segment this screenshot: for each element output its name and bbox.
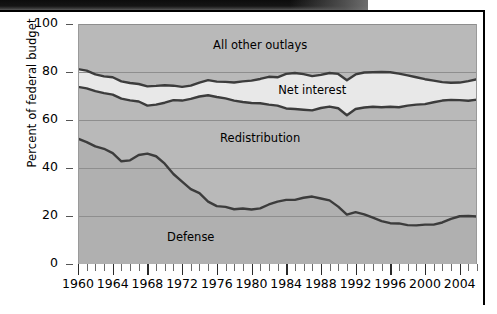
x-tick-1974: [199, 264, 200, 271]
x-tick-label-2000: 2000: [409, 276, 441, 291]
x-tick-1976: [217, 264, 218, 275]
x-tick-label-1972: 1972: [166, 276, 198, 291]
x-tick-label-1992: 1992: [340, 276, 372, 291]
x-tick-1993: [364, 264, 365, 271]
y-tick-dash-40: [66, 168, 73, 169]
y-tick-label-40: 40: [24, 161, 58, 174]
x-tick-1998: [408, 264, 409, 271]
x-tick-1996: [390, 264, 391, 275]
y-tick-label-0: 0: [24, 257, 58, 270]
x-tick-2006: [477, 264, 478, 271]
x-tick-1999: [416, 264, 417, 271]
x-tick-1981: [260, 264, 261, 271]
x-tick-1975: [208, 264, 209, 271]
x-tick-1982: [269, 264, 270, 271]
x-tick-label-1968: 1968: [131, 276, 163, 291]
y-tick-dash-80: [66, 72, 73, 73]
x-tick-label-1988: 1988: [305, 276, 337, 291]
y-tick-label-60: 60: [24, 113, 58, 126]
y-tick-dash-20: [66, 216, 73, 217]
x-tick-1965: [121, 264, 122, 271]
x-tick-1987: [312, 264, 313, 271]
band-label-defense: Defense: [167, 230, 214, 244]
x-tick-label-1960: 1960: [62, 276, 94, 291]
x-tick-1972: [182, 264, 183, 275]
x-tick-1995: [382, 264, 383, 271]
x-tick-1985: [295, 264, 296, 271]
x-tick-2004: [460, 264, 461, 275]
band-label-net-interest: Net interest: [278, 83, 346, 97]
x-tick-1960: [78, 264, 79, 275]
x-axis-ticks: [78, 264, 477, 275]
x-tick-label-1976: 1976: [201, 276, 233, 291]
x-tick-1979: [243, 264, 244, 271]
y-tick-label-20: 20: [24, 209, 58, 222]
y-tick-label-100: 100: [24, 17, 58, 30]
y-tick-dash-0: [66, 264, 73, 265]
x-tick-label-2004: 2004: [444, 276, 476, 291]
x-tick-1962: [95, 264, 96, 271]
x-tick-1986: [304, 264, 305, 271]
x-tick-1970: [165, 264, 166, 271]
y-tick-dash-60: [66, 120, 73, 121]
x-tick-2005: [468, 264, 469, 271]
x-tick-1977: [226, 264, 227, 271]
x-tick-1978: [234, 264, 235, 271]
x-tick-2002: [442, 264, 443, 271]
x-tick-1961: [87, 264, 88, 271]
x-tick-label-1964: 1964: [97, 276, 129, 291]
x-tick-1992: [356, 264, 357, 275]
y-axis-label: Percent of federal budget: [25, 13, 39, 173]
x-tick-1971: [173, 264, 174, 271]
y-tick-dash-100: [66, 24, 73, 25]
x-axis-tick-labels: 1960196419681972197619801984198819921996…: [0, 276, 497, 296]
y-tick-label-80: 80: [24, 65, 58, 78]
x-tick-1989: [330, 264, 331, 271]
x-tick-1967: [139, 264, 140, 271]
x-tick-1963: [104, 264, 105, 271]
x-tick-2000: [425, 264, 426, 275]
x-tick-1969: [156, 264, 157, 271]
x-tick-1990: [338, 264, 339, 271]
x-tick-label-1980: 1980: [236, 276, 268, 291]
x-tick-1991: [347, 264, 348, 271]
x-tick-label-1984: 1984: [270, 276, 302, 291]
x-tick-1973: [191, 264, 192, 271]
x-tick-1983: [278, 264, 279, 271]
x-tick-1968: [147, 264, 148, 275]
x-tick-1964: [113, 264, 114, 275]
x-tick-1988: [321, 264, 322, 275]
x-tick-label-1996: 1996: [374, 276, 406, 291]
x-tick-2003: [451, 264, 452, 271]
x-tick-1997: [399, 264, 400, 271]
x-tick-1980: [252, 264, 253, 275]
x-tick-1966: [130, 264, 131, 271]
stacked-area-chart: Percent of federal budget 020406080100 A…: [0, 0, 497, 314]
band-label-all-other-outlays: All other outlays: [213, 38, 307, 52]
x-tick-1984: [286, 264, 287, 275]
x-tick-2001: [434, 264, 435, 271]
x-tick-1994: [373, 264, 374, 271]
band-label-redistribution: Redistribution: [220, 131, 300, 145]
